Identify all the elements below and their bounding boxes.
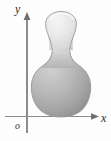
y-axis: [24, 12, 31, 133]
origin-label: o: [15, 120, 20, 131]
x-axis-label: x: [100, 111, 107, 125]
gourd-region: [31, 12, 90, 118]
figure-graphic: y x o: [0, 0, 111, 141]
figure-container: y x o: [0, 0, 111, 141]
y-axis-arrowhead: [24, 12, 31, 20]
y-axis-label: y: [14, 2, 21, 16]
x-axis-arrowhead: [91, 113, 99, 120]
